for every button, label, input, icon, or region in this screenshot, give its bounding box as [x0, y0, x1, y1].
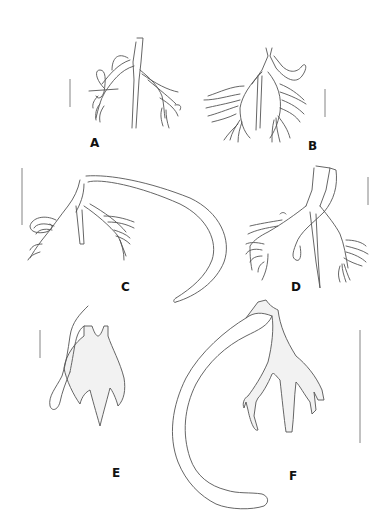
panel-a-drawing — [70, 38, 181, 128]
panel-label-e: E — [112, 467, 120, 479]
panel-label-d: D — [291, 281, 301, 293]
panel-label-f: F — [289, 470, 297, 482]
illustration-canvas — [0, 0, 390, 521]
panel-d-drawing — [246, 166, 368, 288]
panel-label-b: B — [308, 140, 317, 152]
panel-b-drawing — [204, 48, 325, 142]
panel-e-drawing — [40, 306, 125, 426]
panel-label-a: A — [90, 137, 99, 149]
panel-label-c: C — [121, 281, 130, 293]
panel-f-drawing — [172, 300, 360, 509]
figure-plate: A B C D E F — [0, 0, 390, 521]
